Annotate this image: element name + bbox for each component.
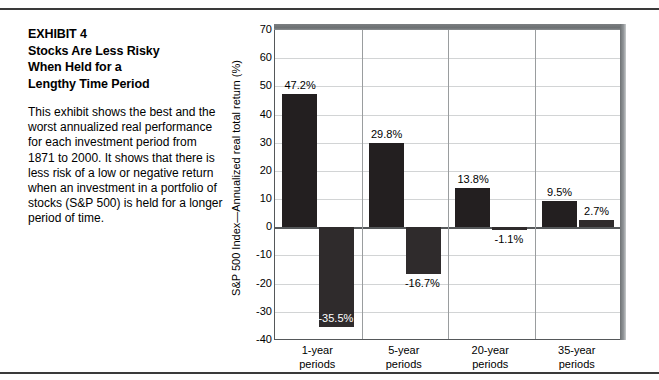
bar-value-label: 47.2% (285, 80, 316, 91)
y-tick-label: -40 (240, 334, 272, 345)
bar (579, 220, 614, 228)
exhibit-title-line-2: Stocks Are Less Risky (28, 43, 224, 60)
exhibit-caption: EXHIBIT 4 Stocks Are Less Risky When Hel… (28, 26, 224, 227)
y-tick-label: 70 (240, 24, 272, 35)
x-category-label-line: 5-year (361, 344, 448, 358)
group-separator (362, 30, 363, 339)
exhibit-description: This exhibit shows the best and the wors… (28, 105, 224, 227)
x-category-label: 5-yearperiods (361, 344, 448, 371)
x-category-label-line: periods (447, 358, 534, 372)
exhibit-title-line-4: Lengthy Time Period (28, 76, 224, 93)
top-divider-rule (0, 8, 659, 10)
bar-value-label: 13.8% (458, 174, 489, 185)
x-axis-category-labels: 1-yearperiods5-yearperiods20-yearperiods… (274, 344, 620, 378)
x-category-label: 35-yearperiods (534, 344, 621, 371)
y-tick-label: 40 (240, 109, 272, 120)
bar-value-label: 9.5% (547, 187, 572, 198)
exhibit-title-line-1: EXHIBIT 4 (28, 26, 224, 43)
x-category-label: 20-yearperiods (447, 344, 534, 371)
x-category-label-line: periods (361, 358, 448, 372)
plot-frame-right-shade (620, 24, 626, 340)
group-separator (535, 30, 536, 339)
bar (369, 143, 404, 227)
x-category-label-line: 20-year (447, 344, 534, 358)
x-category-label-line: periods (534, 358, 621, 372)
x-category-label-line: 1-year (274, 344, 361, 358)
plot-area: 47.2%29.8%13.8%9.5%-35.5%-16.7%-1.1%2.7% (274, 30, 620, 340)
bar-value-label: 29.8% (371, 129, 402, 140)
bar-value-label: -1.1% (495, 234, 524, 245)
x-category-label-line: periods (274, 358, 361, 372)
y-tick-label: 20 (240, 165, 272, 176)
bar (542, 201, 577, 228)
x-category-label: 1-yearperiods (274, 344, 361, 371)
y-tick-label: -30 (240, 306, 272, 317)
y-tick-label: -10 (240, 249, 272, 260)
bar-value-label: -16.7% (405, 278, 440, 289)
bar (492, 227, 527, 230)
group-separator (448, 30, 449, 339)
exhibit-title: EXHIBIT 4 Stocks Are Less Risky When Hel… (28, 26, 224, 92)
bar-value-label: -35.5% (318, 313, 353, 324)
y-tick-label: -20 (240, 278, 272, 289)
bar (406, 227, 441, 274)
y-tick-label: 30 (240, 137, 272, 148)
bar-value-label: 2.7% (584, 206, 609, 217)
y-tick-label: 60 (240, 52, 272, 63)
bar (282, 94, 317, 227)
exhibit-title-line-3: When Held for a (28, 59, 224, 76)
y-tick-label: 0 (240, 221, 272, 232)
x-category-label-line: 35-year (534, 344, 621, 358)
chart-container: S&P 500 Index—Annualized real total retu… (232, 18, 652, 368)
y-axis-tick-labels: 706050403020100-10-20-30-40 (240, 18, 272, 368)
y-tick-label: 50 (240, 80, 272, 91)
y-tick-label: 10 (240, 193, 272, 204)
bar (455, 188, 490, 227)
